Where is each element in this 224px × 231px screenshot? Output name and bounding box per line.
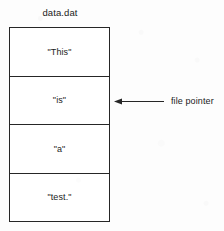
file-record-label: "is" <box>53 95 66 105</box>
file-record-cell: "a" <box>10 124 109 173</box>
file-record-label: "This" <box>48 47 72 57</box>
file-name-label: data.dat <box>0 7 120 18</box>
file-pointer-annotation: file pointer <box>113 93 224 110</box>
file-pointer-label: file pointer <box>171 97 214 106</box>
file-record-label: "a" <box>54 144 66 154</box>
file-record-label: "test." <box>47 192 71 202</box>
file-record-cell: "This" <box>10 28 109 76</box>
file-record-cell: "test." <box>10 173 109 222</box>
file-record-cell: "is" <box>10 76 109 125</box>
arrow-left-icon <box>113 96 165 107</box>
file-box: "This" "is" "a" "test." <box>9 27 110 222</box>
file-structure-diagram: data.dat "This" "is" "a" "test." file po… <box>0 0 224 231</box>
